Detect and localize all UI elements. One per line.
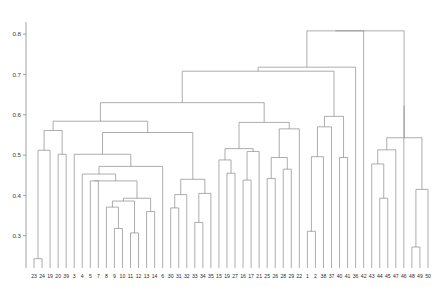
dendrogram-link [247,151,259,268]
leaf-label: 13 [144,273,150,279]
leaf-label: 34 [200,273,206,279]
y-axis-ticks: 0.30.40.50.60.70.8 [12,30,26,239]
leaf-label: 27 [232,273,238,279]
dendrogram-link [171,208,179,268]
dendrogram-link [324,116,343,157]
dendrogram-link [387,138,422,190]
dendrogram-link [131,233,139,268]
leaf-label: 46 [401,273,407,279]
leaf-label: 14 [152,273,158,279]
leaf-label: 8 [105,273,108,279]
dendrogram-link [243,180,251,268]
dendrogram-link [378,150,396,268]
leaf-label: 32 [184,273,190,279]
y-axis-tick-label: 0.6 [12,111,21,118]
leaf-label: 39 [63,273,69,279]
leaf-label: 45 [385,273,391,279]
dendrogram-chart: 0.30.40.50.60.70.8 232419203934578910111… [0,0,437,304]
leaf-label: 24 [39,273,45,279]
dendrogram-link [103,133,193,180]
dendrogram-link [147,212,155,268]
dendrogram-link [416,189,428,268]
leaf-label: 30 [168,273,174,279]
leaf-label: 16 [240,273,246,279]
leaf-label: 47 [393,273,399,279]
leaf-label: 37 [329,273,335,279]
leaf-label: 35 [208,273,214,279]
leaf-label: 48 [409,273,415,279]
leaf-label: 6 [161,273,164,279]
dendrogram-link [82,174,115,268]
dendrogram-link [106,207,118,268]
leaf-label: 43 [369,273,375,279]
dendrogram-link [181,179,205,194]
leaf-label: 49 [417,273,423,279]
dendrogram-link [38,150,50,268]
y-axis-tick-label: 0.3 [12,232,21,239]
leaf-label: 40 [337,273,343,279]
leaf-label: 26 [272,273,278,279]
leaf-label: 17 [248,273,254,279]
dendrogram-link [372,164,384,268]
dendrogram-link [182,71,334,116]
leaf-label: 3 [73,273,76,279]
dendrogram-link [44,130,62,154]
leaf-label: 12 [136,273,142,279]
leaf-label: 33 [192,273,198,279]
leaf-label: 36 [353,273,359,279]
dendrogram-link [258,67,355,268]
leaf-labels: 2324192039345789101112131463031323334351… [31,273,431,279]
dendrogram-link [380,198,388,268]
leaf-label: 21 [256,273,262,279]
dendrogram-link [175,195,187,268]
dendrogram-link [225,149,253,160]
leaf-label: 7 [97,273,100,279]
leaf-label: 10 [120,273,126,279]
dendrogram-link [271,158,287,179]
dendrogram-links [34,31,428,268]
dendrogram-link [267,178,275,268]
dendrogram-link [199,193,211,268]
dendrogram-link [58,154,66,268]
leaf-label: 1 [306,273,309,279]
dendrogram-link [307,231,315,268]
leaf-label: 20 [55,273,61,279]
dendrogram-link [340,158,348,269]
leaf-label: 9 [113,273,116,279]
dendrogram-link [100,103,264,123]
dendrogram-link [123,198,150,211]
leaf-label: 2 [314,273,317,279]
leaf-label: 5 [89,273,92,279]
dendrogram-link [404,106,405,268]
dendrogram-link [283,169,291,268]
leaf-label: 42 [361,273,367,279]
dendrogram-link [195,222,203,268]
leaf-label: 25 [264,273,270,279]
leaf-label: 29 [288,273,294,279]
dendrogram-svg: 0.30.40.50.60.70.8 232419203934578910111… [0,0,437,304]
dendrogram-link [239,122,289,148]
dendrogram-link [412,247,420,268]
y-axis-tick-label: 0.5 [12,151,21,158]
dendrogram-link [90,181,98,268]
dendrogram-link [279,129,299,268]
leaf-label: 50 [425,273,431,279]
dendrogram-link [53,121,148,132]
dendrogram-link [335,31,404,106]
leaf-label: 15 [216,273,222,279]
leaf-label: 38 [321,273,327,279]
dendrogram-link [311,157,323,268]
dendrogram-link [317,127,331,268]
leaf-label: 28 [280,273,286,279]
y-axis-tick-label: 0.7 [12,71,21,78]
leaf-label: 19 [47,273,53,279]
leaf-label: 4 [81,273,84,279]
leaf-label: 19 [224,273,230,279]
leaf-label: 31 [176,273,182,279]
y-axis-tick-label: 0.4 [12,192,21,199]
leaf-label: 11 [128,273,133,279]
dendrogram-link [227,173,235,268]
y-axis-tick-label: 0.8 [12,30,21,37]
leaf-label: 44 [377,273,383,279]
dendrogram-link [219,160,231,268]
